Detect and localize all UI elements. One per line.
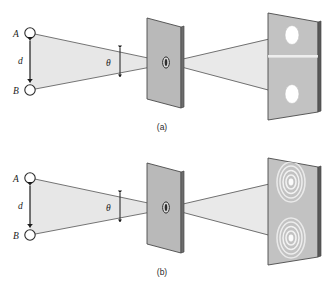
panel-a-label-theta: θ (106, 58, 111, 68)
panel-b-label-a: A (12, 174, 19, 184)
panel-a-source-b (25, 85, 35, 95)
panel-a-caption: (a) (157, 122, 168, 132)
panel-a-screen-edge (318, 21, 321, 112)
panel-b-core-a (289, 179, 294, 186)
optics-resolution-figure: A B d θ (a) (0, 0, 324, 296)
panel-b-label-d: d (18, 201, 23, 211)
panel-b-label-theta: θ (106, 203, 111, 213)
panel-b-label-b: B (13, 231, 19, 241)
panel-b-screen-edge (318, 166, 321, 257)
panel-b-source-b (25, 230, 35, 240)
panel-b-caption: (b) (157, 267, 168, 277)
panel-b-core-b (289, 235, 294, 242)
panel-a-image-spot-b (285, 85, 299, 104)
panel-a-label-a: A (12, 29, 19, 39)
panel-b-aperture-opening (165, 204, 168, 211)
panel-a-screen-highlight (268, 55, 320, 58)
panel-a-source-a (25, 28, 35, 38)
panel-b-aperture-plate-edge (181, 171, 184, 253)
panel-b-source-a (25, 173, 35, 183)
panel-a-aperture-opening (165, 59, 168, 66)
panel-a-label-b: B (13, 86, 19, 96)
panel-a-image-spot-a (285, 26, 299, 45)
panel-a-label-d: d (18, 56, 23, 66)
panel-a-aperture-plate-edge (181, 26, 184, 108)
